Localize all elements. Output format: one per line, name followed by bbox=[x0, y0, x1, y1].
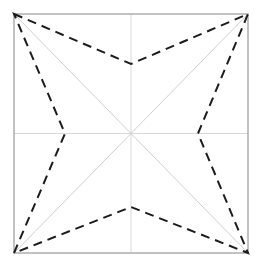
geometric-figure bbox=[0, 0, 259, 270]
figure-canvas bbox=[0, 0, 259, 270]
